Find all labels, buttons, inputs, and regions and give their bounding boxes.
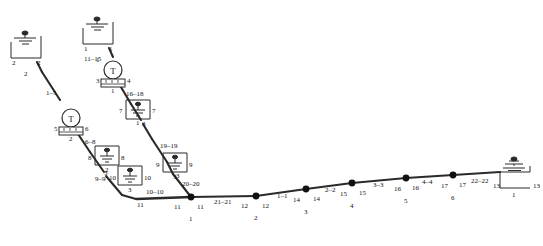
branch-label-21-21: 21–21 xyxy=(214,199,232,206)
tap-9-9-left-label: 10 xyxy=(109,175,116,182)
feeder-node-index-6: 6 xyxy=(451,195,455,202)
tap-9-9-bottom-label: 3 xyxy=(128,187,132,194)
feeder-node-index-3: 3 xyxy=(304,209,308,216)
bus-label-14-left: 14 xyxy=(293,197,300,204)
bus-label-16-right: 16 xyxy=(412,185,419,192)
end-22-22-right-label: 13 xyxy=(533,183,540,190)
bus-label-17-left: 17 xyxy=(441,183,448,190)
bus-label-14-right: 14 xyxy=(313,196,320,203)
tf-lower-left-label: 5 xyxy=(54,126,58,133)
bus-label-12-left: 12 xyxy=(241,203,248,210)
branch-label-19-19: 19–19 xyxy=(160,143,178,150)
tf-lower-right-label: 6 xyxy=(85,126,89,133)
tap-19-19-right-label: 9 xyxy=(189,162,193,169)
src-top-left-label: 1 xyxy=(84,46,88,53)
junction-label-3-lower: 3 xyxy=(176,173,180,180)
branch-label-16-18: 16–18 xyxy=(126,91,144,98)
branch-label-2-2: 2–2 xyxy=(325,187,336,194)
bus-label-12-right: 12 xyxy=(262,203,269,210)
bus-label-17-right: 17 xyxy=(459,182,466,189)
transformer-letter-upper: T xyxy=(110,66,116,76)
tap-16-18-left-label: 7 xyxy=(119,108,123,115)
branch-label-3-3: 3–3 xyxy=(373,182,384,189)
branch-label-11-15: 11–15 xyxy=(84,56,101,63)
junction-label-3-middle: 3 xyxy=(104,170,108,177)
bus-label-11: 11 xyxy=(174,204,181,211)
feeder-node-index-2: 2 xyxy=(254,215,258,222)
junction-label-11-left: 11 xyxy=(137,202,144,209)
tf-upper-left-label: 3 xyxy=(96,78,100,85)
branch-label-1-1: 1–1 xyxy=(277,193,288,200)
src-left-bottom-label: 2 xyxy=(24,71,28,78)
feeder-node-index-4: 4 xyxy=(350,203,354,210)
branch-label-10-10: 10–10 xyxy=(146,189,164,196)
tap-6-8-right-label: 8 xyxy=(121,155,125,162)
tap-9-9-right-label: 10 xyxy=(144,175,151,182)
branch-label-6-8: 6–8 xyxy=(85,139,96,146)
src-left-left-label: 2 xyxy=(12,60,16,67)
junction-label-3-upper: 3 xyxy=(142,121,146,128)
bus-label-16-left: 16 xyxy=(394,186,401,193)
branch-label-22-22: 22–22 xyxy=(471,178,489,185)
transformer-letter-lower: T xyxy=(68,114,74,124)
feeder-node-index-5: 5 xyxy=(404,198,408,205)
tf-upper-right-label: 4 xyxy=(127,78,131,85)
end-22-22-bottom-label: 1 xyxy=(512,192,516,199)
tap-6-8-left-label: 8 xyxy=(88,155,92,162)
src-left-right-label: 2 xyxy=(37,60,41,67)
network-lines: T T xyxy=(0,0,543,246)
bus-label-15-left: 15 xyxy=(340,191,347,198)
tap-19-19-left-label: 9 xyxy=(156,162,160,169)
src-top-right-label: 1 xyxy=(109,46,113,53)
tap-16-18-right-label: 7 xyxy=(152,108,156,115)
diagram-canvas: T T 1 1 1 2 2 2 7 7 1 8 8 2 9 9 3 10 10 … xyxy=(0,0,543,246)
branch-label-9-9: 9–9 xyxy=(95,176,106,183)
feeder-node-index-1: 1 xyxy=(189,216,193,223)
tf-lower-bottom-label: 2 xyxy=(69,136,73,143)
bus-label-11-right: 11 xyxy=(197,204,204,211)
tf-upper-bottom-label: 1 xyxy=(111,88,115,95)
branch-label-20-20: 20–20 xyxy=(182,181,200,188)
tap-16-18-bottom-label: 1 xyxy=(136,120,140,127)
branch-label-4-4: 4–4 xyxy=(422,179,433,186)
end-22-22-left-label: 13 xyxy=(493,183,500,190)
bus-label-15-right: 15 xyxy=(359,190,366,197)
branch-label-1-5: 1–5 xyxy=(46,90,57,97)
